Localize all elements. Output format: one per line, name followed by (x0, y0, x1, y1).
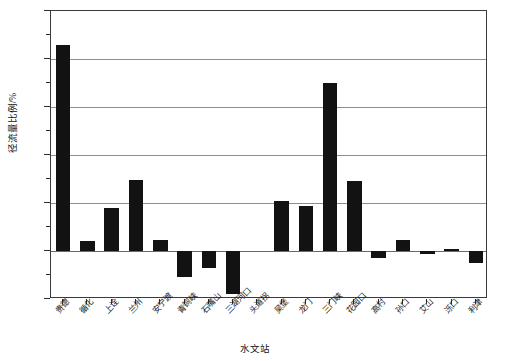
bar-chart: 径流量比例/% -1001020304050 贵德循化上诠兰州安宁渡青铜峡石嘴山… (0, 0, 509, 361)
x-tick-label: 泺口 (442, 297, 460, 315)
x-tick-label: 利津 (466, 297, 484, 315)
bar (444, 249, 459, 251)
bar (420, 251, 435, 254)
bar (226, 251, 241, 294)
bar (396, 240, 411, 251)
bar (177, 251, 192, 277)
x-tick-label: 艾山 (418, 297, 436, 315)
bar (129, 180, 144, 251)
x-tick-label: 吴堡 (272, 297, 290, 315)
x-tick-label: 龙门 (297, 297, 315, 315)
bar (469, 251, 484, 263)
bar (371, 251, 386, 258)
gridline (51, 59, 486, 60)
gridline (51, 107, 486, 108)
x-tick-label: 贵德 (54, 297, 72, 315)
bar (104, 208, 119, 251)
bar (299, 206, 314, 251)
gridline (51, 203, 486, 204)
bar (274, 201, 289, 251)
y-axis-title: 径流量比例/% (5, 63, 19, 183)
x-tick-label: 孙口 (394, 297, 412, 315)
x-axis-title: 水文站 (0, 341, 509, 355)
x-tick-label: 兰州 (127, 297, 145, 315)
gridline (51, 155, 486, 156)
y-tick-mark (44, 298, 50, 299)
bar (202, 251, 217, 268)
bar (323, 83, 338, 251)
bar (153, 240, 168, 251)
bar (56, 45, 71, 251)
bar (347, 181, 362, 251)
plot-area (50, 10, 487, 298)
bar (80, 241, 95, 251)
x-tick-label: 上诠 (102, 297, 120, 315)
x-tick-label: 循化 (78, 297, 96, 315)
x-tick-label: 高村 (369, 297, 387, 315)
